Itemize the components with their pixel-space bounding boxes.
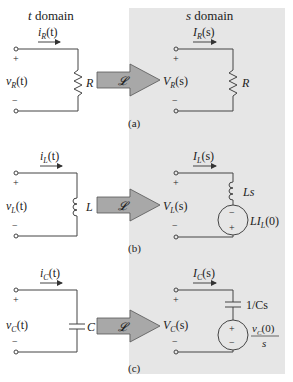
- minus-sign: −: [12, 95, 18, 106]
- label: iL(t): [40, 149, 59, 165]
- label: IC(s): [192, 266, 215, 282]
- label: −: [12, 220, 18, 231]
- label: iC(t): [40, 266, 60, 282]
- circuit-diagram: t domain s domain iR(t) + vR(t) − R 𝓛 IR…: [0, 0, 293, 382]
- label: −: [172, 336, 178, 347]
- resistor-icon: [229, 70, 237, 96]
- label: s: [262, 337, 266, 349]
- label: vL(t): [6, 199, 27, 215]
- label: vC(0): [252, 322, 275, 337]
- voltage-label-va: vR(t): [6, 74, 28, 90]
- label: L: [85, 200, 93, 214]
- laplace-arrow-icon: [97, 64, 160, 96]
- caption-a: (a): [128, 117, 141, 130]
- component-label: 1/Cs: [246, 298, 268, 312]
- label: −: [12, 336, 18, 347]
- label: R: [241, 76, 250, 90]
- label: C: [87, 320, 96, 334]
- label: +: [229, 323, 235, 334]
- caption-c: (c): [128, 362, 141, 375]
- label: LIL(0): [249, 214, 279, 230]
- inductor-icon: [229, 182, 233, 200]
- label: VL(s): [163, 199, 187, 215]
- label: Ls: [242, 185, 255, 199]
- label: +: [173, 177, 179, 188]
- laplace-arrow-icon: [97, 189, 160, 221]
- current-label-ia: iR(t): [38, 25, 58, 41]
- resistor-icon: [74, 70, 82, 96]
- label: −: [229, 207, 235, 218]
- label: −: [172, 220, 178, 231]
- label: +: [173, 294, 179, 305]
- label: VC(s): [163, 318, 188, 334]
- component-label: R: [85, 76, 94, 90]
- plus-sign: +: [13, 53, 19, 64]
- label: −: [172, 95, 178, 106]
- label: +: [13, 294, 19, 305]
- label: +: [13, 177, 19, 188]
- label: +: [229, 222, 235, 233]
- inductor-icon: [73, 198, 77, 216]
- label: −: [229, 337, 235, 348]
- label: +: [173, 53, 179, 64]
- label: IL(s): [192, 149, 214, 165]
- label: VR(s): [163, 74, 188, 90]
- laplace-arrow-icon: [97, 310, 160, 342]
- label: vC(t): [6, 318, 28, 334]
- label: IR(s): [192, 25, 215, 41]
- caption-b: (b): [128, 242, 141, 255]
- s-domain-header: s domain: [186, 8, 234, 23]
- t-domain-header: t domain: [28, 8, 74, 23]
